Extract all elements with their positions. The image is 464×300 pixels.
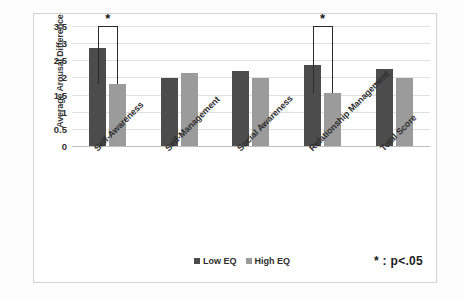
y-axis-tick-label: 2.5 xyxy=(54,55,67,66)
legend-swatch-icon xyxy=(246,258,252,264)
legend-swatch-icon xyxy=(194,258,200,264)
chart-legend: Low EQHigh EQ xyxy=(194,256,290,266)
y-axis-tick-label: 3.5 xyxy=(54,21,67,32)
y-axis-tick-label: 1 xyxy=(62,106,67,117)
y-axis-tick-label: 0.5 xyxy=(54,123,67,134)
legend-label: Low EQ xyxy=(203,256,237,266)
significance-asterisk: * xyxy=(105,12,110,25)
significance-bracket xyxy=(98,26,118,84)
legend-item-low-eq: Low EQ xyxy=(194,256,237,266)
bar-group xyxy=(215,26,287,146)
significance-bracket xyxy=(313,26,333,93)
significance-footnote: * : p<.05 xyxy=(374,254,423,268)
x-axis-category-labels: Self-AwarenessSelf-ManagementSocial Awar… xyxy=(72,146,430,236)
y-axis-tick-label: 0 xyxy=(62,141,67,152)
significance-asterisk: * xyxy=(320,12,325,25)
legend-item-high-eq: High EQ xyxy=(246,256,291,266)
figure-container: Average Arousal Difference 00.511.522.53… xyxy=(0,0,464,300)
chart-plot-frame: Average Arousal Difference 00.511.522.53… xyxy=(33,13,437,283)
legend-label: High EQ xyxy=(255,256,291,266)
y-axis-tick-label: 1.5 xyxy=(54,89,67,100)
y-axis-tick-label: 3 xyxy=(62,38,67,49)
y-axis-tick-label: 2 xyxy=(62,72,67,83)
